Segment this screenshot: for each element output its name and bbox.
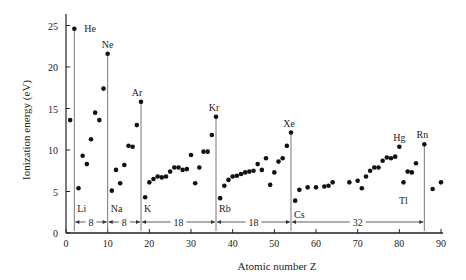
label-he: He [84, 23, 96, 34]
data-point [68, 118, 73, 123]
data-point [439, 180, 444, 185]
data-point [160, 175, 165, 180]
data-point [360, 186, 365, 191]
data-point [235, 173, 240, 178]
y-tick-label: 15 [48, 104, 58, 115]
data-point [330, 180, 335, 185]
data-point [180, 168, 185, 173]
data-point [172, 165, 177, 170]
data-point [430, 187, 435, 192]
data-point [368, 168, 373, 173]
label-cs: Cs [294, 209, 305, 220]
data-point [355, 178, 360, 183]
label-kr: Kr [209, 102, 220, 113]
data-point [230, 174, 235, 179]
data-point [285, 144, 290, 149]
data-point [389, 156, 394, 161]
data-point [193, 181, 198, 186]
y-axis-label: Ionization energy (eV) [20, 80, 33, 180]
element-labels: HeNeArKrXeRnLiNaKRbCsHgTl [77, 23, 428, 220]
data-point [201, 149, 206, 154]
data-point [364, 174, 369, 179]
data-point [185, 167, 190, 172]
data-point [260, 168, 265, 173]
data-point [218, 196, 223, 201]
data-point [97, 118, 102, 123]
x-tick-label: 30 [186, 238, 196, 249]
data-point [276, 159, 281, 164]
data-point [376, 165, 381, 170]
x-tick-label: 70 [353, 238, 363, 249]
data-point [326, 183, 331, 188]
label-ar: Ar [132, 87, 143, 98]
data-point [393, 154, 398, 159]
data-point [101, 86, 106, 91]
data-point [76, 186, 81, 191]
data-point [243, 170, 248, 175]
label-xe: Xe [283, 118, 295, 129]
data-point [118, 181, 123, 186]
data-point [147, 180, 152, 185]
data-point [314, 185, 319, 190]
data-point [189, 153, 194, 158]
data-point [255, 162, 260, 167]
data-point [210, 133, 215, 138]
data-point [264, 156, 269, 161]
label-rb: Rb [219, 203, 231, 214]
label-rn: Rn [416, 129, 428, 140]
label-ne: Ne [102, 39, 114, 50]
data-point [89, 137, 94, 142]
x-tick-label: 60 [311, 238, 321, 249]
period-length-label: 8 [89, 217, 94, 228]
x-tick-label: 0 [64, 238, 69, 249]
x-tick-label: 80 [394, 238, 404, 249]
data-point [176, 165, 181, 170]
data-point [130, 144, 135, 149]
y-tick-label: 20 [48, 62, 58, 73]
data-point [222, 183, 227, 188]
data-point [414, 161, 419, 166]
data-point [247, 169, 252, 174]
period-length-label: 18 [174, 217, 184, 228]
data-point [297, 188, 302, 193]
label-hg: Hg [393, 132, 405, 143]
data-point [372, 165, 377, 170]
data-point [280, 156, 285, 161]
noble-gas-lines [74, 29, 424, 231]
data-point [347, 180, 352, 185]
data-point [251, 168, 256, 173]
period-length-arrows: 88181832 [75, 217, 423, 228]
x-tick-label: 10 [103, 238, 113, 249]
data-point [293, 198, 298, 203]
data-point [397, 144, 402, 149]
data-point [126, 144, 131, 149]
data-point [105, 51, 110, 56]
x-tick-label: 50 [269, 238, 279, 249]
data-point [168, 169, 173, 174]
y-tick-label: 10 [48, 145, 58, 156]
data-point [197, 165, 202, 170]
data-point [380, 158, 385, 163]
data-point [110, 188, 115, 193]
label-tl: Tl [399, 195, 408, 206]
label-k: K [144, 203, 152, 214]
data-point [214, 115, 219, 120]
data-point [164, 174, 169, 179]
data-point [135, 123, 140, 128]
data-point [239, 172, 244, 177]
period-length-label: 32 [353, 217, 363, 228]
data-point [139, 100, 144, 105]
label-li: Li [77, 203, 86, 214]
period-length-label: 18 [249, 217, 259, 228]
ionization-energy-chart: 01020304050607080900510152025 HeNeArKrXe… [0, 0, 466, 280]
data-point [80, 154, 85, 159]
x-tick-label: 40 [228, 238, 238, 249]
data-point [72, 27, 77, 32]
data-point [122, 163, 127, 168]
data-point [155, 174, 160, 179]
data-point [151, 177, 156, 182]
label-na: Na [111, 203, 123, 214]
x-axis-label: Atomic number Z [238, 260, 317, 272]
period-length-label: 8 [122, 217, 127, 228]
data-point [289, 130, 294, 135]
